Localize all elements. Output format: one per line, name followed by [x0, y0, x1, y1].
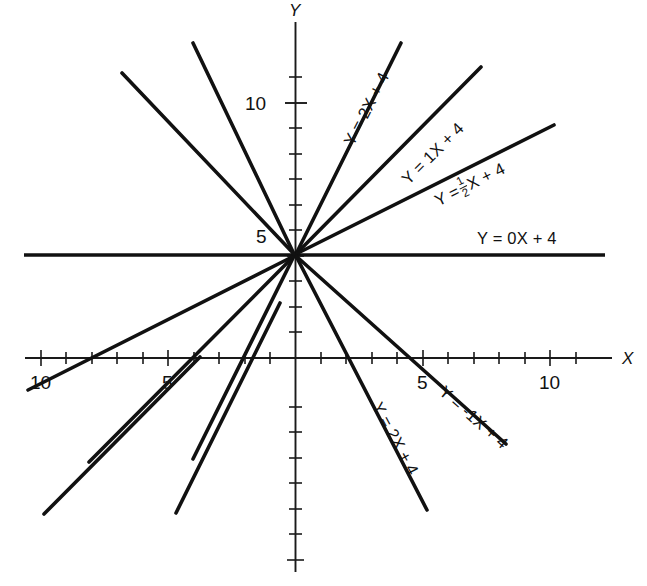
graph-canvas: X Y 10 5 5 10 5 10: [0, 0, 647, 586]
x-tick-label-pos10: 10: [539, 372, 560, 393]
line-y-2x-plus-4-lower-tail: [176, 303, 280, 513]
y-axis-label: Y: [289, 1, 302, 20]
x-tick-label-neg10: 10: [30, 372, 51, 393]
x-tick-label-neg5: 5: [162, 372, 173, 393]
line-y-neg2x-plus-4-upper: [193, 43, 294, 254]
line-y-1x-plus-4-lower-tail: [44, 357, 200, 514]
y-tick-label-10: 10: [245, 93, 266, 114]
x-tick-label-pos5: 5: [417, 372, 428, 393]
data-lines-group: [24, 43, 605, 514]
line-y-half-x-plus-4-lower: [28, 256, 294, 390]
equation-label-0x: Y = 0X + 4: [477, 229, 557, 248]
x-axis-label: X: [621, 349, 634, 368]
line-y-neg1x-plus-4-upper: [122, 73, 294, 254]
line-y-1x-plus-4-upper: [296, 67, 481, 254]
y-tick-label-5: 5: [256, 226, 267, 247]
linear-functions-figure: X Y 10 5 5 10 5 10 Y = 2X + 4 Y = 1X + 4…: [0, 0, 647, 586]
line-y-1x-plus-4-lower: [89, 256, 294, 462]
